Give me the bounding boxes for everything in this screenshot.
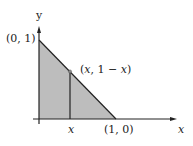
point-label-0-1: (0, 1) <box>6 32 36 45</box>
point-on-line <box>68 70 71 73</box>
x-tick-label: x <box>68 123 75 136</box>
x-axis-label: x <box>178 123 185 136</box>
point-label-x-1-minus-x: (x, 1 − x) <box>80 63 131 76</box>
x-axis-arrow-icon <box>170 117 177 121</box>
y-axis-arrow-icon <box>37 26 41 33</box>
y-axis-label: y <box>35 9 43 22</box>
diagram-canvas: y (0, 1) (x, 1 − x) x (1, 0) x <box>0 0 193 146</box>
point-label-1-0: (1, 0) <box>104 123 134 136</box>
